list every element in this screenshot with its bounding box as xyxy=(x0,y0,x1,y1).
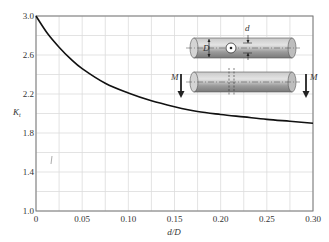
x-tick-label: 0 xyxy=(34,214,39,224)
x-tick-label: 0.30 xyxy=(305,214,321,224)
y-tick-label: 1.8 xyxy=(23,128,35,138)
x-tick-label: 0.20 xyxy=(213,214,229,224)
inset-label-M-right: M xyxy=(309,72,318,82)
x-tick-label: 0.10 xyxy=(120,214,136,224)
x-tick-label: 0.15 xyxy=(167,214,183,224)
y-axis-label: Kt xyxy=(12,107,21,118)
shaft-top-illustration: D d xyxy=(186,23,300,60)
x-tick-label: 0.25 xyxy=(259,214,275,224)
x-tick-label: 0.05 xyxy=(74,214,90,224)
y-tick-label: 1.4 xyxy=(23,167,35,177)
inset-label-d: d xyxy=(245,23,250,33)
stress-concentration-chart: 00.050.100.150.200.250.301.01.41.82.22.6… xyxy=(0,0,329,242)
y-tick-label: 3.0 xyxy=(23,11,35,21)
inset-label-D: D xyxy=(202,43,210,53)
y-tick-label: 1.0 xyxy=(23,206,35,216)
x-axis-label: d/D xyxy=(167,227,181,237)
inset-label-M-left: M xyxy=(170,72,179,82)
stray-mark xyxy=(51,156,52,164)
y-tick-label: 2.6 xyxy=(23,50,35,60)
y-tick-label: 2.2 xyxy=(23,89,34,99)
